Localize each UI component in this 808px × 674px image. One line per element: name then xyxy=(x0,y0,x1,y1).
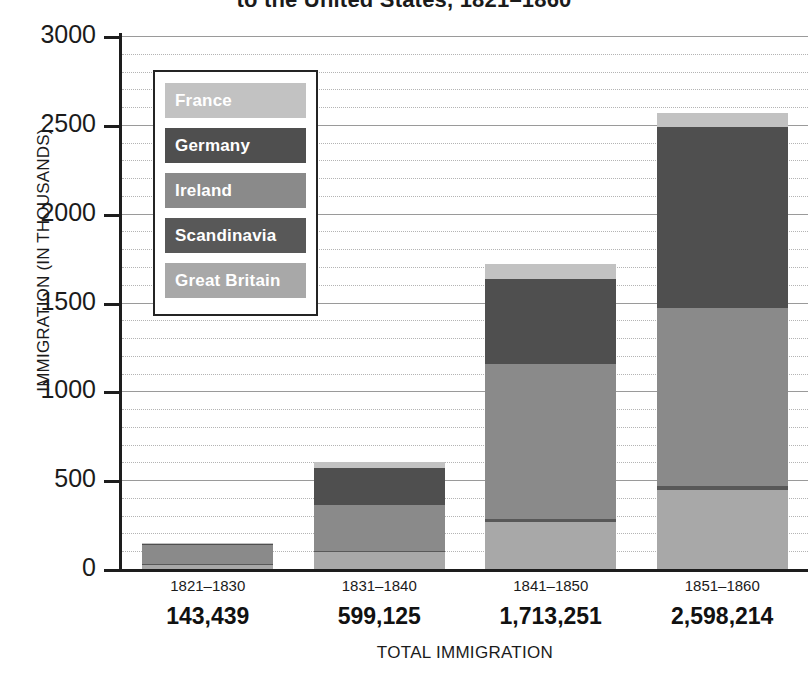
y-tick-mark xyxy=(104,569,122,572)
legend-item-france: France xyxy=(165,83,306,118)
bar-segment-ireland xyxy=(485,364,616,519)
bar-segment-france xyxy=(314,462,445,467)
legend-item-scandinavia: Scandinavia xyxy=(165,218,306,253)
y-tick-label: 2500 xyxy=(0,111,96,136)
y-tick-label: 500 xyxy=(0,466,96,491)
legend-item-germany: Germany xyxy=(165,128,306,163)
bar-segment-ireland xyxy=(142,544,273,564)
bar-segment-ireland xyxy=(657,308,788,486)
y-tick-label: 1500 xyxy=(0,289,96,314)
y-tick-label: 2000 xyxy=(0,200,96,225)
x-category-total: 1,713,251 xyxy=(461,603,641,630)
bar-segment-scandinavia xyxy=(142,564,273,565)
legend-item-label: Scandinavia xyxy=(175,226,276,246)
legend-item-ireland: Ireland xyxy=(165,173,306,208)
bar-segment-scandinavia xyxy=(314,551,445,552)
legend-item-great-britain: Great Britain xyxy=(165,263,306,298)
gridline-minor xyxy=(122,54,808,55)
y-axis-title: IMMIGRATION (IN THOUSANDS) xyxy=(34,10,54,510)
y-tick-label: 3000 xyxy=(0,22,96,47)
x-category-label: 1821–1830 xyxy=(118,577,298,594)
bar-segment-great-britain xyxy=(485,522,616,569)
bar-segment-france xyxy=(485,264,616,279)
bar-segment-france xyxy=(657,113,788,127)
y-tick-mark xyxy=(104,303,122,306)
legend-item-label: Ireland xyxy=(175,181,232,201)
immigration-stacked-bar-chart: to the United States, 1821–1860 IMMIGRAT… xyxy=(0,0,808,674)
x-axis-line xyxy=(104,569,808,572)
y-tick-mark xyxy=(104,125,122,128)
chart-title: to the United States, 1821–1860 xyxy=(0,0,808,13)
bar-1821–1830 xyxy=(142,543,273,569)
y-tick-mark xyxy=(104,36,122,39)
bar-segment-great-britain xyxy=(314,552,445,569)
bar-1831–1840 xyxy=(314,462,445,569)
gridline-major xyxy=(122,36,808,37)
bar-segment-scandinavia xyxy=(485,519,616,521)
bar-1841–1850 xyxy=(485,264,616,569)
y-tick-label: 1000 xyxy=(0,377,96,402)
bar-segment-germany xyxy=(485,279,616,364)
bar-1851–1860 xyxy=(657,113,788,569)
bar-segment-germany xyxy=(657,127,788,308)
chart-legend: FranceGermanyIrelandScandinaviaGreat Bri… xyxy=(153,70,318,316)
y-tick-mark xyxy=(104,391,122,394)
x-category-total: 2,598,214 xyxy=(632,603,808,630)
bar-segment-great-britain xyxy=(657,490,788,569)
y-tick-mark xyxy=(104,480,122,483)
bar-segment-germany xyxy=(314,468,445,505)
x-category-label: 1841–1850 xyxy=(461,577,641,594)
legend-item-label: Germany xyxy=(175,136,250,156)
legend-item-label: Great Britain xyxy=(175,271,281,291)
legend-item-label: France xyxy=(175,91,232,111)
y-tick-mark xyxy=(104,214,122,217)
x-category-total: 143,439 xyxy=(118,603,298,630)
x-category-total: 599,125 xyxy=(289,603,469,630)
x-category-label: 1851–1860 xyxy=(632,577,808,594)
bar-segment-ireland xyxy=(314,505,445,551)
bar-segment-scandinavia xyxy=(657,486,788,490)
x-axis-title: TOTAL IMMIGRATION xyxy=(122,643,808,663)
x-category-label: 1831–1840 xyxy=(289,577,469,594)
y-tick-label: 0 xyxy=(0,555,96,580)
